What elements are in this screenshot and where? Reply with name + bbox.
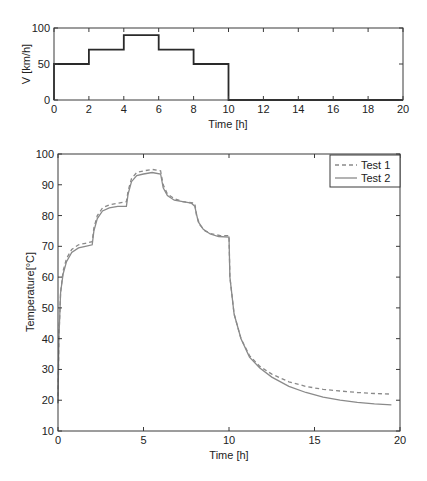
speed-profile-line: [54, 35, 403, 100]
temperature-y-tick-label: 100: [36, 148, 54, 160]
temperature-x-tick-label: 20: [394, 434, 406, 446]
temperature-y-tick-label: 90: [42, 179, 54, 191]
speed-ticks: 02468101214161820050100: [32, 22, 409, 115]
temperature-x-tick-label: 5: [140, 434, 146, 446]
temperature-y-tick-label: 30: [42, 363, 54, 375]
temperature-plot-frame: [58, 154, 400, 431]
temperature-x-tick-label: 0: [55, 434, 61, 446]
speed-x-tick-label: 2: [86, 103, 92, 115]
temperature-x-tick-label: 15: [308, 434, 320, 446]
test-2-line: [58, 173, 391, 405]
temperature-y-tick-label: 70: [42, 240, 54, 252]
temperature-y-axis-label: Temperature[°C]: [24, 252, 36, 332]
speed-x-tick-label: 16: [327, 103, 339, 115]
legend-label-test-2: Test 2: [361, 172, 390, 184]
speed-y-axis-label: V [km/h]: [20, 44, 32, 84]
temperature-chart: 05101520102030405060708090100 Time [h] T…: [24, 148, 406, 461]
speed-x-tick-label: 8: [191, 103, 197, 115]
speed-x-tick-label: 0: [51, 103, 57, 115]
test-1-line: [58, 169, 391, 403]
speed-x-tick-label: 12: [257, 103, 269, 115]
speed-x-axis-label: Time [h]: [208, 118, 247, 130]
speed-y-tick-label: 100: [32, 22, 50, 34]
speed-x-tick-label: 6: [156, 103, 162, 115]
speed-x-tick-label: 20: [397, 103, 409, 115]
speed-x-tick-label: 18: [362, 103, 374, 115]
speed-series-group: [54, 35, 403, 100]
figure: 02468101214161820050100 Time [h] V [km/h…: [0, 0, 427, 481]
temperature-x-axis-label: Time [h]: [209, 449, 248, 461]
temperature-y-tick-label: 80: [42, 210, 54, 222]
speed-x-tick-label: 10: [222, 103, 234, 115]
temperature-series-group: [58, 169, 391, 404]
speed-x-tick-label: 4: [121, 103, 127, 115]
speed-y-tick-label: 50: [38, 58, 50, 70]
temperature-y-tick-label: 20: [42, 394, 54, 406]
temperature-y-tick-label: 50: [42, 302, 54, 314]
legend: Test 1 Test 2: [330, 155, 400, 187]
temperature-y-tick-label: 10: [42, 425, 54, 437]
speed-y-tick-label: 0: [44, 94, 50, 106]
speed-chart: 02468101214161820050100 Time [h] V [km/h…: [20, 22, 409, 130]
temperature-x-tick-label: 10: [223, 434, 235, 446]
legend-label-test-1: Test 1: [361, 159, 390, 171]
temperature-y-tick-label: 60: [42, 271, 54, 283]
speed-x-tick-label: 14: [292, 103, 304, 115]
temperature-y-tick-label: 40: [42, 333, 54, 345]
